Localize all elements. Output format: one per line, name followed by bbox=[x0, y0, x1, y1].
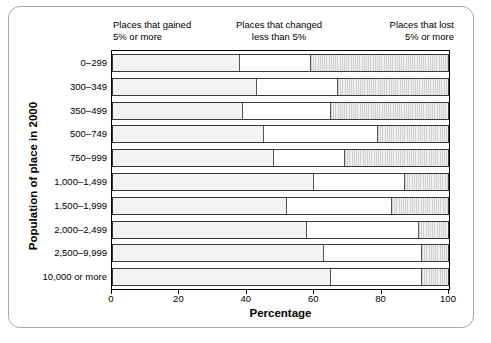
x-axis-tick-label: 40 bbox=[241, 293, 252, 304]
legend-label-gained: Places that gained 5% or more bbox=[113, 19, 217, 42]
bar-segment-gained bbox=[112, 197, 287, 215]
bar-row bbox=[112, 102, 449, 120]
y-axis-tick-label: 2,500–9,999 bbox=[54, 247, 107, 258]
y-axis-tick-label: 500–749 bbox=[70, 128, 107, 139]
y-axis-tick-label: 2,000–2,499 bbox=[54, 223, 107, 234]
bar-segment-gained bbox=[112, 125, 264, 143]
bar-segment-changed bbox=[324, 244, 422, 262]
bar-row bbox=[112, 197, 449, 215]
x-axis-tick-label: 100 bbox=[440, 293, 456, 304]
bar-segment-lost bbox=[331, 102, 449, 120]
bar-row bbox=[112, 149, 449, 167]
x-axis-tick-label: 0 bbox=[108, 293, 113, 304]
bar-segment-gained bbox=[112, 78, 257, 96]
bar-segment-gained bbox=[112, 149, 274, 167]
bar-segment-gained bbox=[112, 173, 314, 191]
x-axis-title: Percentage bbox=[111, 307, 450, 319]
bar-segment-lost bbox=[378, 125, 449, 143]
bar-segment-lost bbox=[422, 268, 449, 286]
bar-row bbox=[112, 268, 449, 286]
bar-row bbox=[112, 221, 449, 239]
bar-segment-gained bbox=[112, 244, 324, 262]
y-axis-tick-label: 750–999 bbox=[70, 152, 107, 163]
y-axis-tick-label: 300–349 bbox=[70, 80, 107, 91]
bar-segment-changed bbox=[331, 268, 422, 286]
y-axis-tick-label: 10,000 or more bbox=[43, 271, 107, 282]
chart-figure: Places that gained 5% or more Places tha… bbox=[8, 6, 474, 328]
bar-segment-changed bbox=[257, 78, 338, 96]
bar-segment-gained bbox=[112, 54, 240, 72]
x-axis-tick-labels: 020406080100 bbox=[111, 291, 450, 307]
bar-segment-lost bbox=[392, 197, 449, 215]
legend-label-changed: Places that changed less than 5% bbox=[223, 19, 335, 42]
bar-segment-changed bbox=[287, 197, 391, 215]
bar-segment-lost bbox=[405, 173, 449, 191]
bar-segment-changed bbox=[243, 102, 331, 120]
bar-row bbox=[112, 54, 449, 72]
chart-legend: Places that gained 5% or more Places tha… bbox=[9, 19, 475, 51]
y-axis-tick-labels: 0–299300–349350–499500–749750–9991,000–1… bbox=[9, 50, 107, 290]
bar-segment-gained bbox=[112, 268, 331, 286]
bar-segment-lost bbox=[345, 149, 449, 167]
bar-segment-changed bbox=[240, 54, 311, 72]
plot-area bbox=[111, 50, 450, 290]
bar-segment-lost bbox=[311, 54, 449, 72]
bar-segment-lost bbox=[419, 221, 449, 239]
bar-row bbox=[112, 244, 449, 262]
bar-segment-changed bbox=[314, 173, 405, 191]
y-axis-tick-label: 0–299 bbox=[81, 56, 107, 67]
x-axis-tick-label: 80 bbox=[375, 293, 386, 304]
bar-row bbox=[112, 173, 449, 191]
bar-segment-lost bbox=[338, 78, 449, 96]
legend-label-lost: Places that lost 5% or more bbox=[346, 19, 454, 42]
bar-segment-lost bbox=[422, 244, 449, 262]
bar-segment-changed bbox=[274, 149, 345, 167]
bar-row bbox=[112, 125, 449, 143]
y-axis-tick-label: 1,000–1,499 bbox=[54, 175, 107, 186]
y-axis-tick-label: 350–499 bbox=[70, 104, 107, 115]
bar-segment-changed bbox=[307, 221, 418, 239]
bar-segment-gained bbox=[112, 221, 307, 239]
bar-row bbox=[112, 78, 449, 96]
y-axis-tick-label: 1,500–1,999 bbox=[54, 199, 107, 210]
x-axis-tick-label: 20 bbox=[173, 293, 184, 304]
x-axis-tick-label: 60 bbox=[308, 293, 319, 304]
bar-segment-changed bbox=[264, 125, 379, 143]
bar-segment-gained bbox=[112, 102, 243, 120]
